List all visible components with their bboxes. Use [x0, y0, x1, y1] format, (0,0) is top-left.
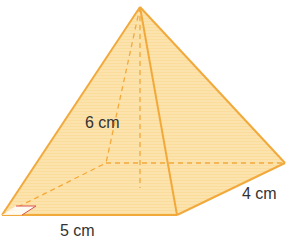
base-width-label: 4 cm: [242, 185, 277, 202]
height-label: 6 cm: [85, 114, 120, 131]
base-length-label: 5 cm: [60, 222, 95, 239]
pyramid-diagram: 6 cm 5 cm 4 cm: [0, 0, 290, 243]
